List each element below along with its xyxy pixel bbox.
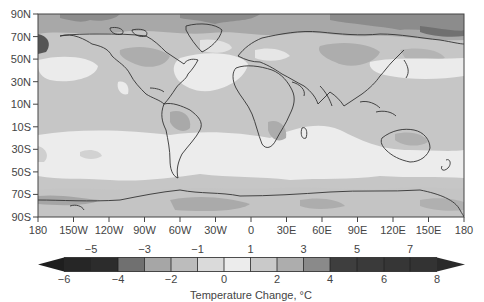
lon-label: 120W <box>95 224 124 236</box>
lon-label: 150E <box>416 224 442 236</box>
lon-label: 180 <box>29 224 47 236</box>
colorbar-title: Temperature Change, °C <box>190 289 312 301</box>
lon-label: 120E <box>380 224 406 236</box>
colorbar-label: 0 <box>221 273 227 285</box>
colorbar-top-labels: −5 −3 −1 1 3 5 7 <box>85 243 413 255</box>
longitude-labels: 180 150W 120W 90W 60W 30W 0 30E 60E 90E … <box>29 224 473 236</box>
lat-label: 90N <box>11 8 31 20</box>
lat-label: 30N <box>11 76 31 88</box>
lon-label: 60W <box>169 224 192 236</box>
temperature-change-map-figure: 90N 70N 50N 30N 10N 10S 30S 50S 70S 90S … <box>0 0 484 302</box>
colorbar <box>38 258 465 272</box>
colorbar-label: −5 <box>85 243 98 255</box>
lat-label: 90S <box>11 211 31 223</box>
colorbar-label: 8 <box>434 273 440 285</box>
colorbar-label: −4 <box>112 273 125 285</box>
lat-label: 70S <box>11 188 31 200</box>
colorbar-label: −2 <box>165 273 178 285</box>
colorbar-label: −6 <box>58 273 71 285</box>
colorbar-label: 4 <box>327 273 333 285</box>
lon-label: 90W <box>133 224 156 236</box>
lat-label: 50N <box>11 53 31 65</box>
latitude-axis <box>33 14 38 217</box>
colorbar-label: −3 <box>138 243 151 255</box>
lon-label: 0 <box>248 224 254 236</box>
lat-label: 10S <box>11 121 31 133</box>
colorbar-label: 1 <box>247 243 253 255</box>
lon-label: 30W <box>204 224 227 236</box>
colorbar-label: −1 <box>191 243 204 255</box>
colorbar-label: 6 <box>381 273 387 285</box>
longitude-axis <box>38 217 464 222</box>
colorbar-label: 5 <box>354 243 360 255</box>
map-panel <box>38 14 464 217</box>
colorbar-bottom-labels: −6 −4 −2 0 2 4 6 8 <box>58 273 440 285</box>
colorbar-max-extension <box>437 258 465 272</box>
lon-label: 60E <box>312 224 332 236</box>
colorbar-label: 7 <box>407 243 413 255</box>
latitude-labels: 90N 70N 50N 30N 10N 10S 30S 50S 70S 90S <box>11 8 31 223</box>
lon-label: 180 <box>455 224 473 236</box>
colorbar-label: 2 <box>274 273 280 285</box>
colorbar-label: 3 <box>300 243 306 255</box>
lon-label: 90E <box>348 224 368 236</box>
colorbar-min-extension <box>38 258 64 272</box>
lat-label: 70N <box>11 31 31 43</box>
lat-label: 10N <box>11 98 31 110</box>
lat-label: 30S <box>11 143 31 155</box>
lon-label: 150W <box>59 224 88 236</box>
lat-label: 50S <box>11 166 31 178</box>
lon-label: 30E <box>277 224 297 236</box>
